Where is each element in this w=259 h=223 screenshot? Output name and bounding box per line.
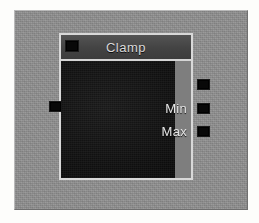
screenshot-root: Clamp Min Max: [0, 0, 259, 223]
node-body: Min Max: [61, 61, 191, 178]
node-output-label-min: Min: [165, 102, 189, 115]
node-output-row-result[interactable]: [187, 77, 189, 91]
node-clamp[interactable]: Clamp Min Max: [59, 33, 193, 180]
node-title: Clamp: [106, 40, 146, 55]
node-editor-canvas[interactable]: Clamp Min Max: [14, 10, 248, 210]
node-output-row-max[interactable]: Max: [162, 124, 189, 138]
output-socket-max-icon[interactable]: [197, 126, 210, 137]
output-socket-min-icon[interactable]: [197, 103, 210, 114]
input-socket-value-icon[interactable]: [49, 101, 62, 112]
node-header-socket-icon[interactable]: [65, 40, 79, 52]
node-output-label-max: Max: [162, 125, 189, 138]
output-socket-result-icon[interactable]: [197, 79, 210, 90]
node-output-row-min[interactable]: Min: [165, 101, 189, 115]
node-header[interactable]: Clamp: [61, 35, 191, 61]
